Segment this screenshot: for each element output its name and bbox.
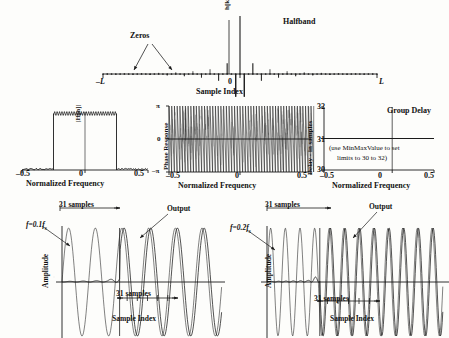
impulse-xlabel: Sample Index xyxy=(196,88,243,96)
delay-ytick-32: 32 xyxy=(317,103,325,111)
delay-ylabel: Delay - in samples xyxy=(307,121,314,175)
delay-xtick-mid: 0 xyxy=(378,172,382,180)
right-span-bottom-label: 31 samples xyxy=(314,295,349,303)
left-input-freq-label: f=0.1fs xyxy=(26,221,47,231)
left-span-top-label: 31 samples xyxy=(59,201,94,209)
left-input-freq-text: f=0.1f xyxy=(26,220,45,229)
impulse-xtick-left: –L xyxy=(96,78,105,86)
right-input-freq-sub: s xyxy=(249,228,251,234)
halfband-title: Halfband xyxy=(283,18,315,26)
delay-note-line2: limits to 30 to 32) xyxy=(337,155,387,162)
delay-note-line1: (use MinMaxValue to set xyxy=(329,145,400,152)
group-delay-title: Group Delay xyxy=(387,107,431,115)
impulse-xtick-center: 0 xyxy=(228,78,232,86)
magnitude-xtick-mid: 0 xyxy=(79,170,83,178)
phase-xlabel: Normalized Frequency xyxy=(178,182,256,190)
left-ylabel: Amplitude xyxy=(42,254,50,288)
right-xlabel: Sample Index xyxy=(330,315,374,323)
magnitude-ylabel: |H[n]| xyxy=(75,105,82,122)
right-input-freq-label: f=0.2fs xyxy=(230,224,251,234)
right-input-freq-text: f=0.2f xyxy=(230,223,249,232)
phase-ytick-negpi: –π xyxy=(152,168,159,175)
zeros-annotation: Zeros xyxy=(130,32,149,40)
left-output-label: Output xyxy=(167,205,190,213)
right-ylabel: Amplitude xyxy=(265,254,273,288)
impulse-ylabel: h[k] xyxy=(224,0,231,10)
phase-xtick-min: –0.5 xyxy=(166,172,180,180)
delay-xlabel: Normalized Frequency xyxy=(332,182,410,190)
phase-ytick-pi: π xyxy=(156,103,160,110)
phase-response-plot xyxy=(163,102,318,182)
magnitude-xlabel: Normalized Frequency xyxy=(26,180,104,188)
impulse-xtick-right: L xyxy=(379,78,384,86)
magnitude-xtick-max: 0.5 xyxy=(134,170,144,178)
left-xlabel: Sample Index xyxy=(112,315,156,323)
delay-xtick-min: –0.5 xyxy=(320,172,334,180)
delay-ytick-31: 31 xyxy=(317,136,325,144)
magnitude-xtick-min: –0.5 xyxy=(16,170,30,178)
left-input-freq-sub: s xyxy=(45,225,47,231)
right-span-top-label: 31 samples xyxy=(265,201,300,209)
phase-ytick-zero: 0 xyxy=(157,136,161,143)
left-span-bottom-label: 31 samples xyxy=(116,290,151,298)
phase-ylabel: Phase Response xyxy=(163,123,170,170)
delay-xtick-max: 0.5 xyxy=(424,172,434,180)
phase-xtick-mid: 0 xyxy=(235,172,239,180)
right-output-label: Output xyxy=(369,203,392,211)
figure-root: Zeros h[k] Halfband –L 0 L Sample Index … xyxy=(0,0,449,338)
